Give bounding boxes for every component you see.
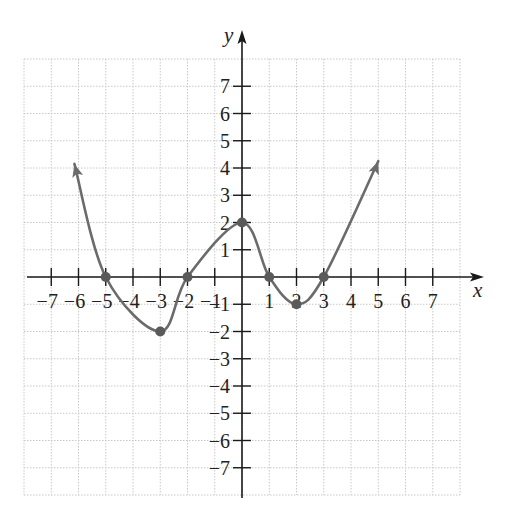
marked-point-local-maximum	[237, 218, 247, 228]
x-axis-label: x	[472, 278, 483, 302]
function-graph: −7−6−5−4−3−2−11234567−7−6−5−4−3−2−112345…	[0, 0, 510, 520]
x-tick-label: −5	[91, 290, 112, 312]
y-tick-label: 4	[220, 157, 230, 179]
marked-point-local-minimum	[155, 327, 165, 337]
x-tick-label: −6	[64, 290, 85, 312]
x-tick-label: 3	[319, 290, 329, 312]
y-tick-label: −3	[209, 348, 230, 370]
y-tick-label: −5	[209, 402, 230, 424]
y-axis-label: y	[222, 23, 234, 47]
x-tick-label: 6	[401, 290, 411, 312]
y-tick-label: −6	[209, 430, 230, 452]
marked-point-x-intercept	[101, 272, 111, 282]
y-tick-label: 6	[220, 103, 230, 125]
y-tick-label: −2	[209, 321, 230, 343]
y-tick-label: −4	[209, 375, 230, 397]
y-tick-label: −7	[209, 457, 230, 479]
y-tick-label: 1	[220, 239, 230, 261]
x-tick-label: 4	[346, 290, 356, 312]
y-tick-label: −1	[209, 293, 230, 315]
x-tick-label: 1	[264, 290, 274, 312]
marked-point-x-intercept	[183, 272, 193, 282]
x-tick-label: −3	[146, 290, 167, 312]
marked-point-local-minimum	[292, 299, 302, 309]
x-tick-label: 7	[428, 290, 438, 312]
axes	[27, 30, 484, 498]
y-tick-label: 3	[220, 184, 230, 206]
marked-point-x-intercept	[264, 272, 274, 282]
x-tick-label: −7	[37, 290, 58, 312]
x-tick-label: 5	[373, 290, 383, 312]
marked-point-x-intercept	[319, 272, 329, 282]
y-tick-label: 7	[220, 75, 230, 97]
y-tick-label: 5	[220, 130, 230, 152]
